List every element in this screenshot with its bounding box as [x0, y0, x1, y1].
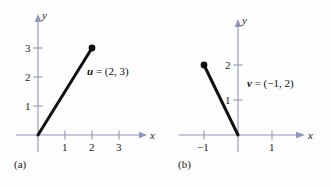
- vector-v-segment: [204, 65, 238, 135]
- vector-u-endpoint-dot: [89, 45, 96, 52]
- vector-v-components: = (−1, 2): [252, 77, 294, 89]
- x-axis-label: x: [150, 130, 155, 141]
- vector-u-segment: [38, 48, 92, 135]
- y-tick-label-3: 3: [25, 43, 31, 54]
- x-tick-label-neg1: −1: [197, 142, 209, 153]
- x-axis-arrowhead: [296, 132, 305, 139]
- vector-v-label: v = (−1, 2): [247, 78, 294, 89]
- vector-v-endpoint-dot: [201, 62, 208, 69]
- vector-u-label: u = (2, 3): [87, 66, 129, 77]
- y-axis-label: y: [42, 10, 47, 21]
- x-tick-label-3: 3: [116, 142, 122, 153]
- panel-b-caption: (b): [178, 159, 191, 170]
- y-axis-arrowhead: [35, 14, 42, 22]
- panel-a-caption: (a): [14, 159, 26, 170]
- vector-u-components: = (2, 3): [93, 65, 129, 77]
- panel-a: 1 2 3 1 2 3 x y u = (2, 3) (a): [0, 0, 165, 187]
- y-axis-label: y: [242, 15, 247, 26]
- y-tick-label-1: 1: [225, 95, 231, 106]
- x-tick-label-1: 1: [62, 142, 68, 153]
- y-tick-label-2: 2: [225, 60, 231, 71]
- x-axis-label: x: [308, 130, 313, 141]
- y-axis-arrowhead: [235, 19, 242, 27]
- x-tick-label-1: 1: [269, 142, 275, 153]
- x-axis-arrowhead: [139, 132, 147, 139]
- x-tick-label-2: 2: [89, 142, 95, 153]
- y-tick-label-1: 1: [25, 101, 31, 112]
- y-tick-label-2: 2: [25, 72, 31, 83]
- vector-figure: 1 2 3 1 2 3 x y u = (2, 3) (a): [0, 0, 331, 187]
- panel-b: −1 1 1 2 x y v = (−1, 2) (b): [165, 0, 331, 187]
